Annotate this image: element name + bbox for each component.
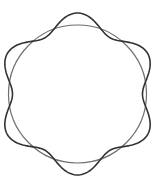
reference-circle bbox=[9, 25, 147, 163]
wavy-closed-curve bbox=[5, 13, 150, 175]
diagram-canvas bbox=[0, 0, 156, 185]
